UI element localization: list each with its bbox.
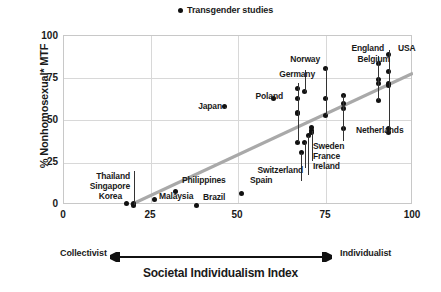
y-tick-50: 50 — [18, 114, 58, 125]
leader-line — [308, 136, 309, 175]
x-axis-title: Societal Individualism Index — [0, 266, 441, 280]
x-tick-0: 0 — [43, 209, 83, 220]
leader-line — [343, 129, 344, 141]
axis-end-collectivist: Collectivist — [60, 248, 107, 258]
point-label-philippines: Philippines — [182, 176, 226, 186]
y-tick-75: 75 — [18, 72, 58, 83]
point-label-usa: USA — [398, 44, 416, 54]
data-point[interactable] — [124, 201, 129, 206]
point-label-norway: Norway — [290, 55, 320, 65]
leader-line — [134, 171, 135, 205]
legend-marker-icon — [178, 8, 183, 13]
x-tick-75: 75 — [305, 209, 345, 220]
data-point[interactable] — [239, 191, 244, 196]
x-tick-100: 100 — [392, 209, 432, 220]
point-label-poland: Poland — [256, 92, 283, 102]
leader-line — [298, 83, 299, 142]
point-label-spain: Spain — [250, 176, 272, 186]
legend-label: Transgender studies — [187, 5, 273, 15]
double-arrow-icon — [110, 252, 332, 262]
data-point[interactable] — [152, 197, 157, 202]
data-point[interactable] — [194, 203, 199, 208]
gridline-y-25 — [64, 163, 411, 164]
axis-end-individualist: Individualist — [340, 248, 391, 258]
point-label-england: England — [352, 44, 384, 54]
point-label-brazil: Brazil — [203, 193, 225, 203]
point-label-netherlands: Netherlands — [356, 126, 403, 136]
x-tick-50: 50 — [217, 209, 257, 220]
y-axis-title: % Nonhomosexual* MTF — [38, 16, 50, 196]
leader-line — [343, 95, 344, 129]
gridline-y-75 — [64, 78, 411, 79]
point-label-japan: Japan — [198, 102, 222, 112]
leader-line — [225, 107, 226, 108]
y-tick-100: 100 — [18, 30, 58, 41]
y-tick-25: 25 — [18, 156, 58, 167]
point-label-germany: Germany — [279, 70, 315, 80]
leader-line — [326, 68, 327, 115]
point-label-belgium: Belgium — [358, 55, 390, 65]
point-label-ireland: Ireland — [313, 162, 340, 172]
gridline-y-50 — [64, 120, 411, 121]
scatter-chart-figure: Transgender studies % Nonhomosexual* MTF… — [0, 0, 441, 292]
leader-line — [305, 142, 306, 167]
x-tick-25: 25 — [130, 209, 170, 220]
point-label-switzerland: Switzerland — [257, 166, 303, 176]
point-label-malaysia: Malaysia — [159, 192, 193, 202]
chart-legend: Transgender studies — [178, 5, 273, 15]
point-label-korea: Korea — [99, 192, 122, 202]
y-tick-0: 0 — [18, 198, 58, 209]
